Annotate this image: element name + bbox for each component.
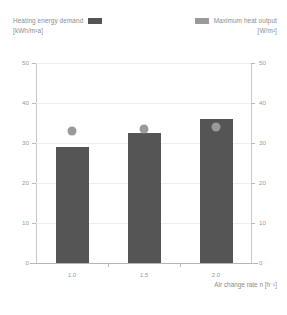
y-axis-left-tick-label: 40 bbox=[22, 100, 29, 106]
bar-heating-energy-demand bbox=[128, 133, 161, 263]
marker-maximum-heat-output bbox=[68, 127, 77, 136]
axis-tick bbox=[251, 63, 255, 64]
legend-unit-heating-energy-demand: [kWh/m²a] bbox=[13, 26, 102, 36]
legend-swatch-dark-icon bbox=[88, 18, 102, 24]
y-axis-left-line bbox=[36, 63, 37, 263]
axis-tick bbox=[32, 263, 36, 264]
bar-heating-energy-demand bbox=[56, 147, 89, 263]
legend-label-maximum-heat-output: Maximum heat output bbox=[214, 16, 277, 26]
axis-tick bbox=[251, 223, 255, 224]
gridline bbox=[36, 63, 252, 64]
chart-container: Heating energy demand [kWh/m²a] Maximum … bbox=[0, 0, 287, 315]
x-axis-line bbox=[30, 263, 258, 264]
y-axis-right-tick-label: 50 bbox=[259, 60, 266, 66]
x-axis-tick-label: 1.0 bbox=[68, 271, 77, 278]
axis-tick bbox=[251, 143, 255, 144]
marker-maximum-heat-output bbox=[212, 123, 221, 132]
legend-swatch-light-icon bbox=[195, 18, 209, 24]
axis-tick bbox=[251, 103, 255, 104]
y-axis-right-tick-label: 10 bbox=[259, 220, 266, 226]
x-axis-title: Air change rate n [h⁻¹] bbox=[214, 281, 277, 289]
y-axis-left-tick-label: 10 bbox=[22, 220, 29, 226]
axis-tick bbox=[32, 103, 36, 104]
y-axis-right-line bbox=[251, 63, 252, 263]
legend-unit-maximum-heat-output: [W/m²] bbox=[195, 26, 277, 36]
y-axis-right-tick-label: 40 bbox=[259, 100, 266, 106]
bar-heating-energy-demand bbox=[200, 119, 233, 263]
y-axis-right-tick-label: 20 bbox=[259, 180, 266, 186]
axis-tick bbox=[32, 63, 36, 64]
y-axis-right-tick-label: 30 bbox=[259, 140, 266, 146]
axis-tick bbox=[251, 183, 255, 184]
axis-tick bbox=[180, 263, 181, 267]
y-axis-right-tick-label: 0 bbox=[259, 260, 262, 266]
y-axis-left-tick-label: 0 bbox=[26, 260, 29, 266]
x-axis-tick-label: 2.0 bbox=[212, 271, 221, 278]
x-axis-tick-label: 1.5 bbox=[140, 271, 149, 278]
axis-tick bbox=[32, 143, 36, 144]
axis-tick bbox=[32, 183, 36, 184]
chart-legend: Heating energy demand [kWh/m²a] Maximum … bbox=[0, 16, 287, 48]
legend-entry-heating-energy-demand: Heating energy demand [kWh/m²a] bbox=[13, 16, 102, 35]
plot-area: 00101020203030404050501.01.52.0 bbox=[36, 63, 252, 263]
y-axis-left-tick-label: 20 bbox=[22, 180, 29, 186]
y-axis-left-tick-label: 30 bbox=[22, 140, 29, 146]
legend-label-heating-energy-demand: Heating energy demand bbox=[13, 16, 83, 26]
marker-maximum-heat-output bbox=[140, 125, 149, 134]
axis-tick bbox=[251, 263, 255, 264]
y-axis-left-tick-label: 50 bbox=[22, 60, 29, 66]
axis-tick bbox=[32, 223, 36, 224]
legend-entry-maximum-heat-output: Maximum heat output [W/m²] bbox=[195, 16, 277, 35]
axis-tick bbox=[108, 263, 109, 267]
gridline bbox=[36, 103, 252, 104]
